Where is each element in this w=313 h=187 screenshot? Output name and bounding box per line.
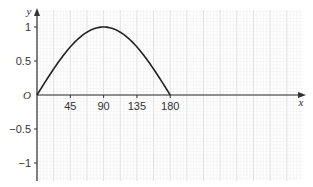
y-tick-label: 1 [25, 21, 31, 33]
y-tick-label: 0.5 [16, 55, 31, 67]
x-tick-label: 45 [64, 100, 76, 112]
x-tick-label: 90 [97, 100, 109, 112]
x-tick-label: 180 [161, 100, 179, 112]
y-tick-label: −0.5 [9, 123, 31, 135]
sine-graph: 459013518010.5−0.5−1Oyx [0, 0, 313, 187]
y-tick-label: −1 [18, 157, 31, 169]
x-tick-label: 135 [128, 100, 146, 112]
y-axis-label: y [26, 5, 32, 17]
x-axis-label: x [298, 96, 304, 108]
origin-label: O [23, 89, 31, 101]
